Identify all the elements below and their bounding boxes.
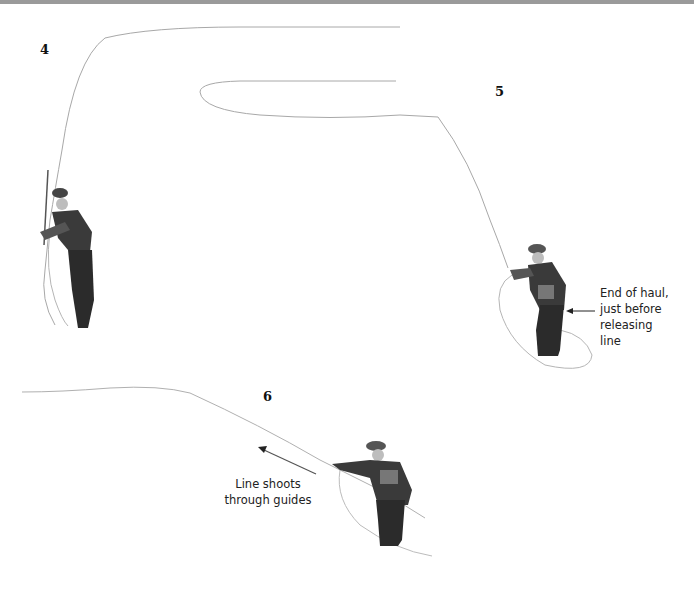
- caption-line: End of haul,: [600, 285, 669, 301]
- step-5-angler-figure: [510, 244, 566, 356]
- step-number-4: 4: [40, 42, 49, 57]
- step-number-5: 5: [495, 84, 504, 99]
- caption-line: line: [600, 333, 669, 349]
- step-6-angler-figure: [332, 441, 412, 546]
- caption-line: releasing: [600, 317, 669, 333]
- step-6-arrowhead: [258, 446, 267, 453]
- step-4-fly-line: [44, 27, 400, 325]
- step-5-arrowhead: [566, 308, 573, 314]
- caption-line: through guides: [218, 492, 318, 508]
- caption-line: just before: [600, 301, 669, 317]
- step-number-6: 6: [263, 389, 272, 404]
- step-6-caption: Line shoots through guides: [218, 476, 318, 508]
- step-5-caption: End of haul, just before releasing line: [600, 285, 669, 349]
- fly-casting-diagram: 4 5 6 End of haul, just before releasing…: [0, 0, 694, 589]
- caption-line: Line shoots: [218, 476, 318, 492]
- step-5-fly-line: [200, 81, 508, 268]
- diagram-drawing: [0, 0, 694, 589]
